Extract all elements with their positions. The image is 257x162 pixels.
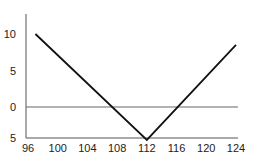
x-tick-label: 100: [49, 142, 67, 154]
tick-labels: 9610010410811211612012410505: [4, 28, 245, 154]
series-lines: [35, 34, 236, 140]
y-tick-label: 5: [10, 132, 16, 144]
x-tick-label: 120: [197, 142, 215, 154]
y-tick-label: 5: [10, 65, 16, 77]
y-tick-label: 10: [4, 28, 16, 40]
chart: 9610010410811211612012410505: [0, 0, 257, 162]
x-tick-label: 108: [108, 142, 126, 154]
x-tick-label: 112: [138, 142, 156, 154]
y-tick-label: 0: [10, 101, 16, 113]
x-tick-label: 116: [168, 142, 186, 154]
x-tick-label: 104: [78, 142, 96, 154]
payoff-line: [35, 34, 236, 140]
x-tick-label: 96: [22, 142, 34, 154]
x-tick-label: 124: [227, 142, 245, 154]
